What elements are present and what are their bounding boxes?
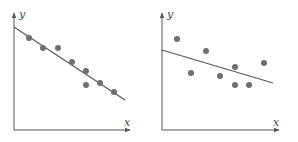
data-point (111, 89, 117, 95)
data-point (203, 48, 209, 54)
scatter-chart-strong-correlation: y x (14, 8, 131, 130)
data-point (232, 64, 238, 70)
data-point (83, 68, 89, 74)
x-axis-label: x (273, 116, 280, 129)
data-point (174, 36, 180, 42)
data-point (55, 45, 61, 51)
data-point (188, 70, 194, 76)
data-point (26, 35, 32, 41)
data-point (246, 82, 252, 88)
scatter-chart-weak-correlation: y x (162, 8, 280, 130)
y-axis-label: y (18, 8, 26, 21)
data-point (217, 73, 223, 79)
data-point (232, 82, 238, 88)
data-layer (162, 36, 273, 88)
x-axis-label: x (124, 116, 131, 129)
scatter-plots-figure: y x y x (0, 0, 298, 142)
y-axis-label: y (166, 8, 174, 21)
data-point (97, 80, 103, 86)
data-point (83, 82, 89, 88)
data-point (40, 45, 46, 51)
data-point (69, 59, 75, 65)
regression-line (162, 50, 273, 83)
data-point (261, 60, 267, 66)
data-layer (14, 27, 125, 100)
